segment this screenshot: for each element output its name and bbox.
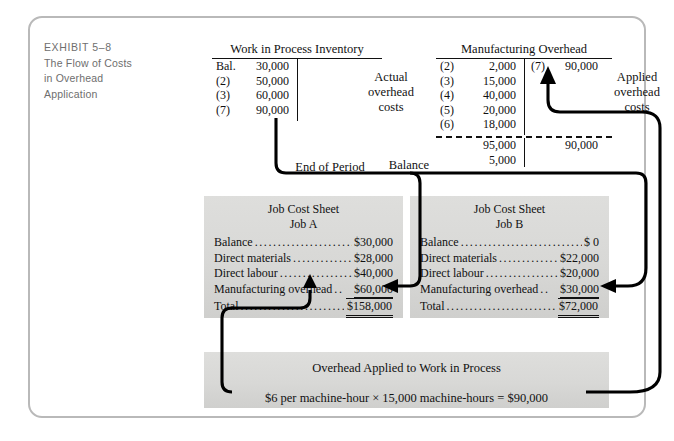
leader-dots: ............................ <box>280 266 352 282</box>
exhibit-page: EXHIBIT 5–8 The Flow of Costs in Overhea… <box>0 0 674 441</box>
overhead-applied-box: Overhead Applied to Work in Process $6 p… <box>204 352 609 408</box>
exhibit-title-line-3: Application <box>44 87 194 103</box>
moh-debit-total-side: 95,000 5,000 <box>436 138 524 167</box>
exhibit-caption: EXHIBIT 5–8 The Flow of Costs in Overhea… <box>44 40 194 102</box>
job-a-label-direct-materials: Direct materials <box>214 251 291 267</box>
table-row: (7) 90,000 <box>525 59 612 74</box>
moh-debit-side: (2) 2,000 (3) 15,000 (4) 40,000 (5) 20,0… <box>436 59 524 135</box>
job-a-row-direct-labour: Direct labour ..........................… <box>214 266 393 282</box>
table-row: (5) 20,000 <box>436 103 524 118</box>
table-row: 5,000 <box>436 153 524 168</box>
t-account-title-wip: Work in Process Inventory <box>212 42 382 59</box>
moh-balance: 5,000 <box>474 153 524 168</box>
moh-credit-side: (7) 90,000 <box>524 59 612 135</box>
job-b-row-direct-materials: Direct materials .......................… <box>420 251 599 267</box>
job-b-label-direct-labour: Direct labour <box>420 266 484 282</box>
wip-debit-amount-3: 90,000 <box>250 103 297 118</box>
wip-debit-ref-1: (2) <box>212 74 250 89</box>
job-b-value-manufacturing-overhead: $30,000 <box>560 282 599 299</box>
leader-dots: ........................... <box>461 235 582 251</box>
leader-dots: .. <box>540 282 558 298</box>
job-a-row-direct-materials: Direct materials .......................… <box>214 251 393 267</box>
table-row: (4) 40,000 <box>436 88 524 103</box>
label-applied-overhead-costs: Applied overhead costs <box>600 70 674 115</box>
job-a-label-balance: Balance <box>214 235 253 251</box>
actual-label-line-2: overhead <box>345 85 437 100</box>
wip-debit-amount-2: 60,000 <box>250 88 297 103</box>
job-b-label-direct-materials: Direct materials <box>420 251 497 267</box>
label-end-of-period: End of Period <box>285 160 375 175</box>
wip-debit-amount-0: 30,000 <box>250 59 297 74</box>
applied-label-line-2: overhead <box>600 85 674 100</box>
job-a-sheet-title: Job Cost Sheet <box>214 202 393 217</box>
leader-dots: ........................... <box>486 266 558 282</box>
job-a-value-direct-materials: $28,000 <box>354 251 393 267</box>
leader-dots: .. <box>334 282 352 298</box>
job-b-sheet-title: Job Cost Sheet <box>420 202 599 217</box>
job-b-row-manufacturing-overhead: Manufacturing overhead .. $30,000 <box>420 282 599 299</box>
moh-debit-amount-0: 2,000 <box>474 59 524 74</box>
table-row: (2) 50,000 <box>212 74 297 89</box>
table-row: (3) 15,000 <box>436 74 524 89</box>
moh-debit-amount-1: 15,000 <box>474 74 524 89</box>
job-b-value-direct-materials: $22,000 <box>560 251 599 267</box>
overhead-applied-formula: $6 per machine-hour × 15,000 machine-hou… <box>214 390 599 406</box>
exhibit-title-line-2: in Overhead <box>44 71 194 87</box>
moh-debit-ref-2: (4) <box>436 88 474 103</box>
table-row: 90,000 <box>525 138 612 153</box>
job-b-job-name: Job B <box>420 217 599 232</box>
exhibit-number: EXHIBIT 5–8 <box>44 40 194 56</box>
moh-debit-amount-4: 18,000 <box>474 117 524 132</box>
moh-credit-total: 90,000 <box>561 138 612 153</box>
job-b-value-direct-labour: $20,000 <box>560 266 599 282</box>
job-a-label-total: Total <box>214 299 239 315</box>
table-row: (7) 90,000 <box>212 103 297 118</box>
table-row: (3) 60,000 <box>212 88 297 103</box>
job-b-value-total: $72,000 <box>558 298 599 318</box>
job-a-label-manufacturing-overhead: Manufacturing overhead <box>214 282 332 298</box>
label-balance: Balance <box>378 158 440 173</box>
wip-debit-ref-0: Bal. <box>212 59 250 74</box>
job-a-value-total: $158,000 <box>346 298 393 318</box>
overhead-applied-title: Overhead Applied to Work in Process <box>214 360 599 376</box>
job-b-label-balance: Balance <box>420 235 459 251</box>
leader-dots: ............................ <box>255 235 352 251</box>
t-account-title-moh: Manufacturing Overhead <box>436 42 612 59</box>
job-b-row-total: Total .......................... $72,000 <box>420 298 599 318</box>
moh-debit-ref-1: (3) <box>436 74 474 89</box>
moh-debit-ref-3: (5) <box>436 103 474 118</box>
table-row: (2) 2,000 <box>436 59 524 74</box>
job-b-value-balance: $ 0 <box>584 235 599 251</box>
moh-debit-total: 95,000 <box>474 138 524 153</box>
job-a-job-name: Job A <box>214 217 393 232</box>
table-row: 95,000 <box>436 138 524 153</box>
moh-debit-amount-3: 20,000 <box>474 103 524 118</box>
table-row: Bal. 30,000 <box>212 59 297 74</box>
label-actual-overhead-costs: Actual overhead costs <box>345 70 437 115</box>
moh-debit-ref-0: (2) <box>436 59 474 74</box>
leader-dots: .......................... <box>241 299 345 315</box>
table-row: (6) 18,000 <box>436 117 524 132</box>
wip-debit-amount-1: 50,000 <box>250 74 297 89</box>
wip-debit-ref-3: (7) <box>212 103 250 118</box>
job-a-value-manufacturing-overhead: $60,000 <box>354 282 393 299</box>
moh-debit-ref-4: (6) <box>436 117 474 132</box>
job-b-row-direct-labour: Direct labour ..........................… <box>420 266 599 282</box>
job-cost-sheet-job-b: Job Cost Sheet Job B Balance ...........… <box>410 196 609 318</box>
t-account-manufacturing-overhead: Manufacturing Overhead (2) 2,000 (3) 15,… <box>436 42 612 167</box>
wip-debit-side: Bal. 30,000 (2) 50,000 (3) 60,000 (7) 90… <box>212 59 297 121</box>
moh-credit-ref-0: (7) <box>525 59 561 74</box>
job-a-value-balance: $30,000 <box>354 235 393 251</box>
leader-dots: .......................... <box>447 299 557 315</box>
moh-debit-amount-2: 40,000 <box>474 88 524 103</box>
moh-credit-total-side: 90,000 <box>524 138 612 167</box>
job-cost-sheet-job-a: Job Cost Sheet Job A Balance ...........… <box>204 196 403 318</box>
job-a-row-balance: Balance ............................ $30… <box>214 235 393 251</box>
job-b-label-manufacturing-overhead: Manufacturing overhead <box>420 282 538 298</box>
applied-label-line-3: costs <box>600 100 674 115</box>
job-a-value-direct-labour: $40,000 <box>354 266 393 282</box>
wip-debit-ref-2: (3) <box>212 88 250 103</box>
leader-dots: ........................... <box>499 251 558 267</box>
job-a-label-direct-labour: Direct labour <box>214 266 278 282</box>
job-b-label-total: Total <box>420 299 445 315</box>
